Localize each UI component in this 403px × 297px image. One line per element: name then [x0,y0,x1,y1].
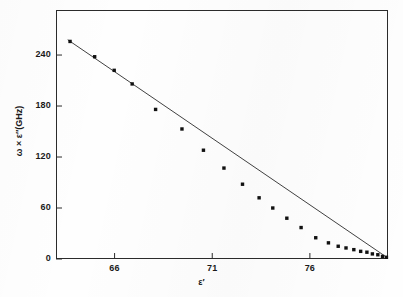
x-tick-label: 71 [192,263,232,273]
data-point [154,108,157,111]
data-point [376,253,379,256]
data-point [257,196,260,199]
y-tick-label: 60 [41,202,51,212]
data-point [180,127,183,130]
data-point [241,183,244,186]
y-tick-label: 180 [35,100,51,110]
x-tick-label: 76 [290,263,330,273]
data-point [314,236,317,239]
data-point [385,256,388,259]
y-tick-label: 120 [35,151,51,161]
y-axis-ticks [56,55,62,259]
data-point [371,252,374,255]
x-axis-title: ε′ [0,277,403,287]
data-point [344,246,347,249]
x-axis-ticks [115,253,310,259]
data-point [68,40,71,43]
data-point [222,166,225,169]
data-point [285,217,288,220]
data-point [365,251,368,254]
data-point [327,241,330,244]
y-tick-label: 0 [46,253,51,263]
fit-line [68,40,388,258]
data-point [112,69,115,72]
data-point [202,149,205,152]
data-point [381,255,384,258]
data-point [271,206,274,209]
data-point [93,55,96,58]
data-point [337,245,340,248]
data-point [359,250,362,253]
figure-container: 060120180240 667176 ε′ ω × ε″(GHz) [0,0,403,297]
y-tick-label: 240 [35,49,51,59]
data-point [299,226,302,229]
data-point [130,82,133,85]
data-point [352,248,355,251]
plot-canvas [0,0,403,297]
y-axis-title: ω × ε″(GHz) [14,76,24,186]
x-tick-label: 66 [95,263,135,273]
